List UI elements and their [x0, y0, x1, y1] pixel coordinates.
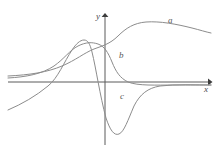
math-figure: y x a b c — [0, 0, 215, 152]
curve-label-a: a — [168, 16, 173, 25]
curve-label-b: b — [119, 51, 124, 60]
curve-label-c: c — [120, 92, 124, 101]
y-axis-arrowhead-icon — [102, 13, 109, 17]
plot-canvas — [0, 0, 215, 152]
x-axis-label: x — [204, 85, 208, 94]
curve-b — [8, 43, 211, 85]
curve-c — [8, 40, 211, 134]
y-axis-label: y — [96, 12, 100, 21]
curve-a — [8, 22, 211, 76]
